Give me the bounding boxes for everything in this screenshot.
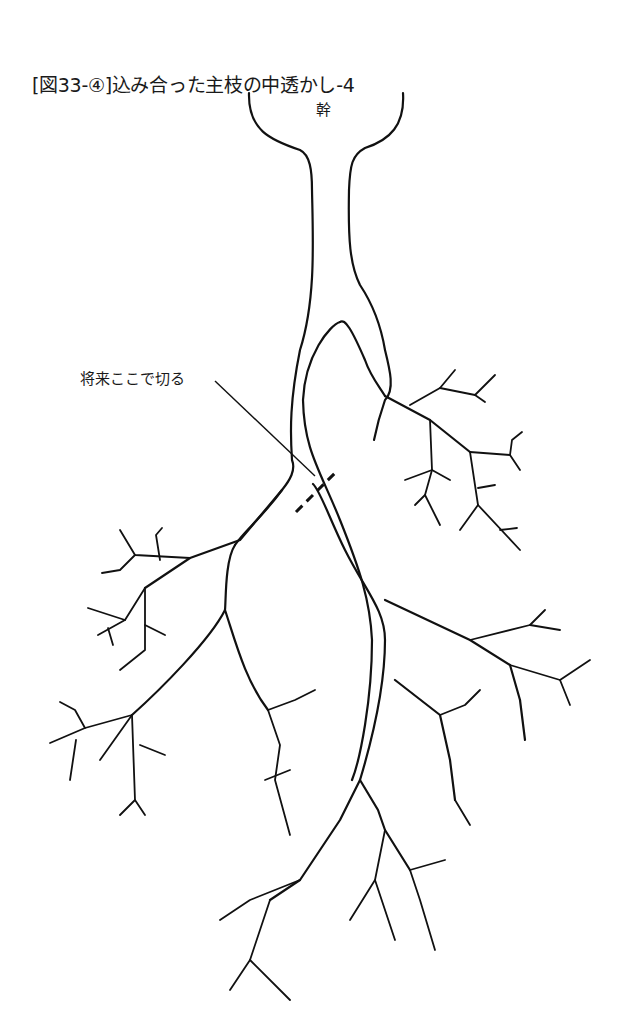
- branch-left: [50, 490, 315, 835]
- leader-line: [215, 381, 315, 476]
- trunk-outline: [235, 93, 403, 780]
- branch-lower-right: [220, 600, 590, 1000]
- tree-diagram: [0, 0, 627, 1028]
- branch-upper-right: [385, 370, 522, 550]
